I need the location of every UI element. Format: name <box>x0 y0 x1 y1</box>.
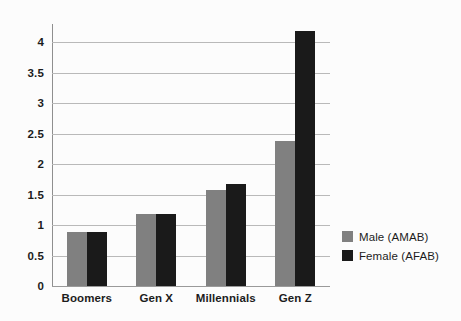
y-tick-label: 2 <box>37 158 44 170</box>
bar-series-group <box>52 24 330 286</box>
legend-item: Male (AMAB) <box>342 228 439 245</box>
y-tick-label: 3.5 <box>27 67 44 79</box>
x-axis-category-labels: BoomersGen XMillennialsGen Z <box>52 292 330 312</box>
plot-area <box>52 24 330 286</box>
bar <box>87 232 107 286</box>
gridline <box>52 286 330 287</box>
legend-swatch-icon <box>342 231 353 242</box>
y-tick-label: 1.5 <box>27 189 44 201</box>
bar <box>156 214 176 287</box>
y-tick-label: 0.5 <box>27 250 44 262</box>
bar <box>67 232 87 286</box>
bar-chart: 00.511.522.533.54 BoomersGen XMillennial… <box>0 0 461 321</box>
x-axis-label: Gen Z <box>279 292 312 304</box>
legend-label: Male (AMAB) <box>359 231 428 243</box>
y-tick-label: 3 <box>37 97 44 109</box>
chart-legend: Male (AMAB)Female (AFAB) <box>342 228 439 266</box>
legend-item: Female (AFAB) <box>342 247 439 264</box>
y-tick-label: 2.5 <box>27 128 44 140</box>
legend-label: Female (AFAB) <box>359 250 439 262</box>
y-tick-label: 1 <box>37 219 44 231</box>
bar <box>206 190 226 286</box>
bar <box>226 184 246 286</box>
bar <box>295 31 315 286</box>
legend-swatch-icon <box>342 250 353 261</box>
y-tick-label: 0 <box>37 280 44 292</box>
x-axis-label: Gen X <box>139 292 173 304</box>
bar <box>275 141 295 286</box>
x-axis-label: Boomers <box>61 292 112 304</box>
bar <box>136 214 156 286</box>
y-axis-tick-labels: 00.511.522.533.54 <box>0 0 44 321</box>
y-tick-label: 4 <box>37 36 44 48</box>
x-axis-label: Millennials <box>196 292 256 304</box>
